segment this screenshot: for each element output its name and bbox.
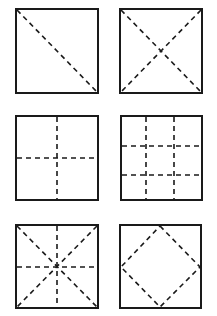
panel-half-cross bbox=[16, 116, 98, 200]
fold-line-diagonal bbox=[17, 10, 97, 92]
panel-both-diagonals bbox=[120, 9, 202, 93]
panel-single-diagonal bbox=[16, 9, 98, 93]
fold-line-diamond bbox=[121, 226, 200, 307]
panel-thirds-grid bbox=[121, 116, 202, 200]
fold-line-diagonal bbox=[121, 10, 201, 92]
panel-star-folds bbox=[16, 225, 98, 308]
folding-diagram-figure: .sq { fill: none; stroke: #1a1a1a; strok… bbox=[0, 0, 217, 316]
square-outline bbox=[121, 116, 202, 200]
panel-diamond-folds bbox=[120, 225, 201, 308]
square-outline bbox=[120, 225, 201, 308]
